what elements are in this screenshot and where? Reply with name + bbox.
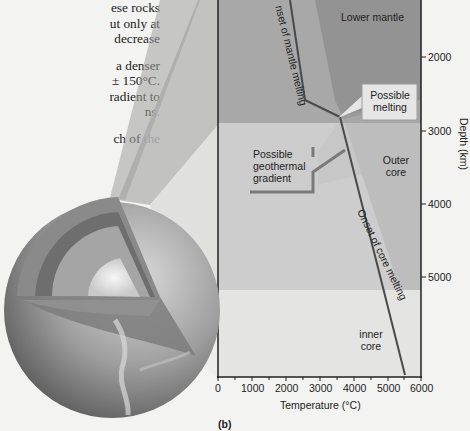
x-tick-5000: 5000 [377, 382, 400, 394]
geothermal-line3: gradient [253, 172, 306, 184]
panel-label: (b) [218, 418, 231, 430]
y-tick-5000: 5000 [428, 271, 451, 283]
possible-melting-label: Possible melting [368, 89, 412, 113]
y-tick-3000: 3000 [428, 125, 451, 137]
x-tick-1000: 1000 [241, 382, 264, 394]
x-tick-3000: 3000 [309, 382, 332, 394]
x-tick-4000: 4000 [343, 382, 366, 394]
possible-melting-line2: melting [368, 101, 412, 113]
y-axis-title: Depth (km) [458, 118, 470, 170]
inner-core-line2: core [356, 340, 386, 352]
inner-core-line1: inner [356, 328, 386, 340]
y-tick-2000: 2000 [428, 51, 451, 63]
geothermal-line1: Possible [253, 148, 306, 160]
outer-core-label: Outer core [381, 154, 411, 178]
x-tick-0: 0 [215, 382, 221, 394]
inner-core-label: inner core [356, 328, 386, 352]
outer-core-line1: Outer [381, 154, 411, 166]
x-tick-2000: 2000 [275, 382, 298, 394]
x-axis-title: Temperature (°C) [280, 399, 361, 411]
inner-core-band [218, 290, 421, 377]
geothermal-line2: geothermal [253, 160, 306, 172]
lower-mantle-label: Lower mantle [341, 11, 404, 23]
possible-melting-line1: Possible [368, 89, 412, 101]
x-tick-6000: 6000 [410, 382, 433, 394]
outer-core-line2: core [381, 166, 411, 178]
possible-geothermal-gradient-label: Possible geothermal gradient [253, 148, 306, 184]
y-tick-4000: 4000 [428, 198, 451, 210]
